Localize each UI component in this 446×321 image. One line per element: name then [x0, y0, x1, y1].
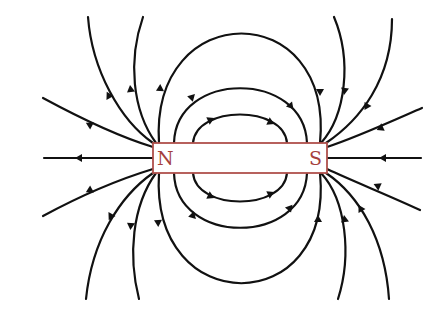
magnet-body [153, 143, 327, 173]
field-line [43, 169, 153, 216]
arrow-icon [126, 85, 135, 93]
arrows-top-loops [156, 84, 324, 128]
field-line [88, 17, 153, 143]
field-line [327, 108, 422, 147]
magnet-field-diagram: N S [0, 0, 446, 321]
arrow-icon [75, 154, 82, 162]
field-line [321, 17, 344, 143]
field-line [327, 169, 420, 210]
arrow-icon [156, 84, 164, 91]
south-pole-label: S [309, 147, 322, 169]
field-loops-bottom [159, 173, 321, 283]
bar-magnet: N S [153, 143, 327, 173]
arrow-icon [379, 154, 386, 162]
field-line [133, 173, 156, 299]
field-line [321, 173, 345, 299]
field-line [86, 173, 153, 299]
field-lines-right [321, 17, 422, 299]
field-line [43, 98, 153, 147]
field-loops-top [159, 34, 321, 144]
arrow-icon [314, 215, 322, 222]
field-lines-left [43, 17, 156, 299]
arrow-icon [154, 220, 162, 227]
field-line [134, 17, 156, 143]
north-pole-label: N [157, 147, 174, 169]
